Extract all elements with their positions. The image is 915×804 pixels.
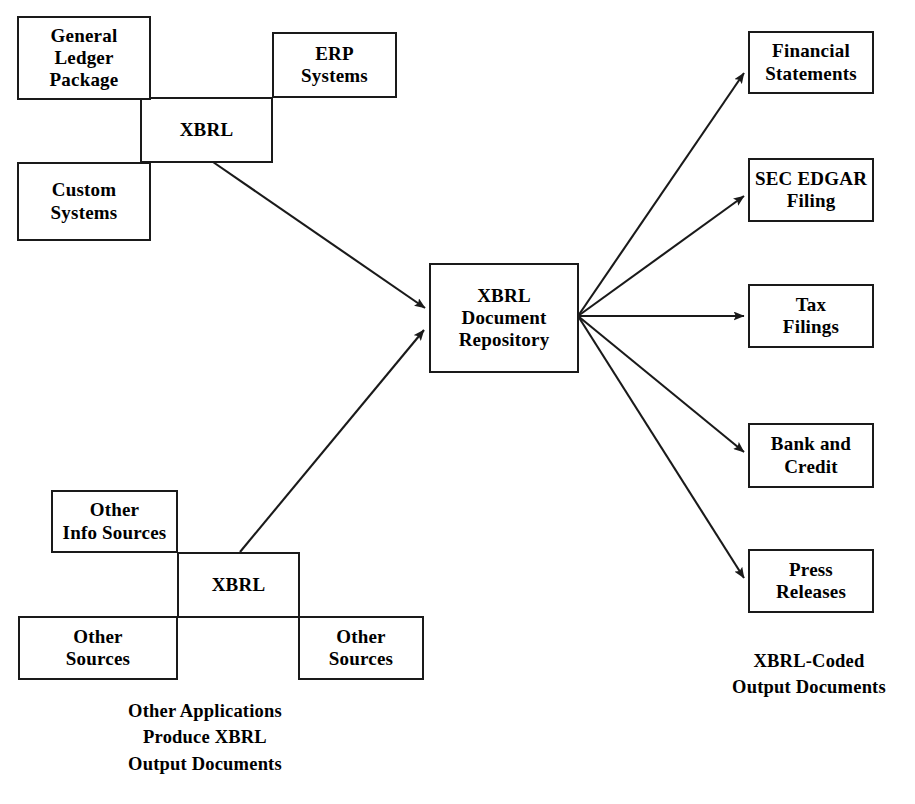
xbrl-flow-diagram: XBRL General Ledger Package ERP Systems … bbox=[0, 0, 915, 804]
caption-left-line-0: Other Applications bbox=[60, 698, 350, 724]
node-sec-edgar-line-0: SEC EDGAR bbox=[755, 168, 867, 190]
node-financial-statements-line-1: Statements bbox=[765, 63, 857, 85]
node-xbrl-top-line-0: XBRL bbox=[180, 119, 234, 141]
node-other-sources-left[interactable]: Other Sources bbox=[18, 616, 178, 680]
edge-repository-to-bank-credit bbox=[578, 316, 744, 452]
caption-left-line-2: Output Documents bbox=[60, 751, 350, 777]
node-xbrl-bottom-line-0: XBRL bbox=[212, 574, 266, 596]
node-general-ledger-line-2: Package bbox=[50, 69, 119, 91]
node-tax-filings-line-1: Filings bbox=[783, 316, 839, 338]
node-repository-line-2: Repository bbox=[459, 329, 550, 351]
caption-right-xbrl-coded-output: XBRL-Coded Output Documents bbox=[703, 648, 915, 701]
node-bank-and-credit[interactable]: Bank and Credit bbox=[748, 423, 874, 488]
node-bank-credit-line-1: Credit bbox=[784, 456, 838, 478]
node-other-sources-right-line-1: Sources bbox=[329, 648, 393, 670]
node-other-sources-left-line-1: Sources bbox=[66, 648, 130, 670]
node-press-releases[interactable]: Press Releases bbox=[748, 549, 874, 613]
node-bank-credit-line-0: Bank and bbox=[771, 433, 851, 455]
node-other-sources-right[interactable]: Other Sources bbox=[298, 616, 424, 680]
node-sec-edgar-line-1: Filing bbox=[787, 190, 836, 212]
edge-xbrl-top-to-repository bbox=[213, 162, 425, 308]
node-press-releases-line-1: Releases bbox=[776, 581, 846, 603]
node-erp-systems[interactable]: ERP Systems bbox=[272, 32, 397, 98]
node-xbrl-bottom[interactable]: XBRL bbox=[177, 552, 300, 618]
node-erp-systems-line-0: ERP bbox=[315, 43, 354, 65]
edge-repository-to-financial-statements bbox=[578, 73, 744, 316]
node-custom-systems-line-0: Custom bbox=[52, 179, 117, 201]
node-financial-statements[interactable]: Financial Statements bbox=[748, 31, 874, 94]
edge-repository-to-press-releases bbox=[578, 316, 744, 578]
caption-left-line-1: Produce XBRL bbox=[60, 724, 350, 750]
node-general-ledger-line-1: Ledger bbox=[54, 47, 113, 69]
node-custom-systems-line-1: Systems bbox=[51, 202, 118, 224]
edge-xbrl-bottom-to-repository bbox=[240, 330, 424, 552]
caption-right-line-0: XBRL-Coded bbox=[703, 648, 915, 674]
node-xbrl-top[interactable]: XBRL bbox=[140, 97, 273, 163]
node-general-ledger-package[interactable]: General Ledger Package bbox=[17, 16, 151, 100]
node-other-info-sources-line-0: Other bbox=[90, 499, 140, 521]
node-repository-line-0: XBRL bbox=[477, 285, 531, 307]
node-financial-statements-line-0: Financial bbox=[772, 40, 850, 62]
node-repository-line-1: Document bbox=[462, 307, 547, 329]
node-tax-filings[interactable]: Tax Filings bbox=[748, 284, 874, 348]
node-press-releases-line-0: Press bbox=[789, 559, 833, 581]
node-other-sources-right-line-0: Other bbox=[336, 626, 386, 648]
node-sec-edgar-filing[interactable]: SEC EDGAR Filing bbox=[748, 158, 874, 222]
node-tax-filings-line-0: Tax bbox=[796, 294, 827, 316]
caption-right-line-1: Output Documents bbox=[703, 674, 915, 700]
caption-left-other-applications: Other Applications Produce XBRL Output D… bbox=[60, 698, 350, 777]
node-other-info-sources-line-1: Info Sources bbox=[63, 522, 167, 544]
node-other-sources-left-line-0: Other bbox=[73, 626, 123, 648]
node-general-ledger-line-0: General bbox=[51, 25, 118, 47]
node-other-info-sources[interactable]: Other Info Sources bbox=[51, 490, 178, 553]
node-erp-systems-line-1: Systems bbox=[301, 65, 368, 87]
edge-repository-to-sec-edgar bbox=[578, 196, 744, 316]
node-custom-systems[interactable]: Custom Systems bbox=[17, 162, 151, 241]
node-xbrl-document-repository[interactable]: XBRL Document Repository bbox=[429, 263, 579, 373]
